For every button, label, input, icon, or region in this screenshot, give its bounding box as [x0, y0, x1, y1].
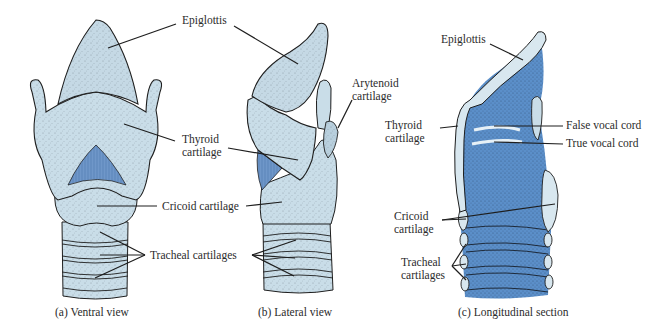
label-cricoid-section-line1: Cricoid — [394, 210, 434, 223]
label-false-vocal-cord: False vocal cord — [566, 119, 641, 132]
larynx-diagram: Epiglottis Thyroid cartilage Cricoid car… — [0, 0, 665, 333]
label-cricoid-section: Cricoid cartilage — [394, 210, 434, 235]
label-thyroid-section-line1: Thyroid — [385, 119, 425, 132]
larynx-illustration — [0, 0, 665, 333]
label-tracheal-section: Tracheal cartilages — [401, 256, 445, 281]
label-thyroid-section-line2: cartilage — [385, 132, 425, 145]
label-thyroid-section: Thyroid cartilage — [385, 119, 425, 144]
label-thyroid-line1: Thyroid — [182, 133, 222, 146]
label-true-vocal-cord: True vocal cord — [566, 137, 638, 150]
caption-lateral-view: (b) Lateral view — [258, 306, 332, 318]
label-arytenoid-line2: cartilage — [352, 90, 399, 103]
label-arytenoid-line1: Arytenoid — [352, 77, 399, 90]
label-epiglottis-ventral: Epiglottis — [182, 14, 227, 27]
label-cricoid-section-line2: cartilage — [394, 223, 434, 236]
label-tracheal-cartilages: Tracheal cartilages — [150, 249, 237, 262]
longitudinal-section-drawing — [440, 32, 563, 299]
label-cricoid-cartilage: Cricoid cartilage — [162, 200, 239, 213]
label-tracheal-section-line2: cartilages — [401, 269, 445, 282]
label-arytenoid-cartilage: Arytenoid cartilage — [352, 77, 399, 102]
label-thyroid-line2: cartilage — [182, 146, 222, 159]
label-tracheal-section-line1: Tracheal — [401, 256, 445, 269]
lateral-view-drawing — [228, 23, 352, 293]
caption-ventral-view: (a) Ventral view — [55, 306, 129, 318]
caption-longitudinal-section: (c) Longitudinal section — [458, 306, 569, 318]
label-thyroid-cartilage: Thyroid cartilage — [182, 133, 222, 158]
label-epiglottis-section: Epiglottis — [441, 33, 486, 46]
